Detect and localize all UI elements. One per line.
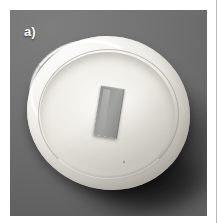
panel-divider-rule — [216, 0, 217, 223]
specimen-sheen — [97, 89, 111, 134]
dish-surface-speck — [123, 161, 125, 163]
figure-panel-sheet: a) — [0, 0, 221, 223]
photo-panel-a: a) — [10, 10, 207, 216]
panel-label: a) — [24, 25, 36, 38]
